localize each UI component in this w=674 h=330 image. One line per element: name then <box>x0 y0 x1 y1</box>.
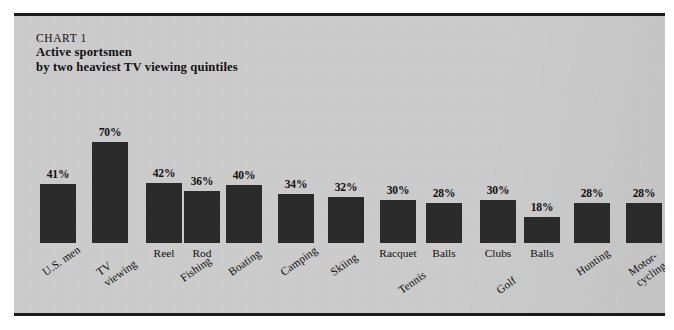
bar-group: 30%Clubs <box>480 16 516 316</box>
bar-value-label: 30% <box>487 184 509 196</box>
bar-sub-label: Racquet <box>379 247 416 259</box>
bar-value-label: 28% <box>633 187 655 199</box>
chart-title-line-2: by two heaviest TV viewing quintiles <box>36 60 238 75</box>
bar-group: 30%Racquet <box>380 16 416 316</box>
bar-sub-label: Balls <box>432 247 455 259</box>
bar[interactable] <box>184 191 220 243</box>
figure-root: CHART 1 Active sportsmen by two heaviest… <box>0 0 674 330</box>
bar-sub-label: Clubs <box>485 247 512 259</box>
bar[interactable] <box>426 203 462 243</box>
bar[interactable] <box>226 185 262 243</box>
bar-value-label: 34% <box>285 178 307 190</box>
bar-value-label: 41% <box>47 168 69 180</box>
bar-group: 28%Balls <box>426 16 462 316</box>
bar[interactable] <box>524 217 560 243</box>
bar[interactable] <box>40 184 76 243</box>
bar-value-label: 36% <box>191 175 213 187</box>
bar-sub-label: Balls <box>530 247 553 259</box>
chart-panel: CHART 1 Active sportsmen by two heaviest… <box>14 13 665 316</box>
bar-group: 18%Balls <box>524 16 560 316</box>
bar[interactable] <box>278 194 314 243</box>
bar-value-label: 32% <box>335 181 357 193</box>
chart-title-line-1: Active sportsmen <box>36 45 238 60</box>
title-block: CHART 1 Active sportsmen by two heaviest… <box>36 31 238 76</box>
bar[interactable] <box>380 200 416 243</box>
bar-value-label: 42% <box>153 167 175 179</box>
bar[interactable] <box>328 197 364 243</box>
bar-value-label: 40% <box>233 169 255 181</box>
bar[interactable] <box>92 142 128 243</box>
bar[interactable] <box>480 200 516 243</box>
chart-number: CHART 1 <box>36 31 238 45</box>
bar[interactable] <box>626 203 662 243</box>
bar-value-label: 70% <box>99 126 121 138</box>
bar-value-label: 28% <box>433 187 455 199</box>
bar[interactable] <box>146 183 182 243</box>
bar-sub-label: Reel <box>154 247 175 259</box>
bar-value-label: 30% <box>387 184 409 196</box>
bar-value-label: 28% <box>581 187 603 199</box>
bar-value-label: 18% <box>531 201 553 213</box>
bar[interactable] <box>574 203 610 243</box>
